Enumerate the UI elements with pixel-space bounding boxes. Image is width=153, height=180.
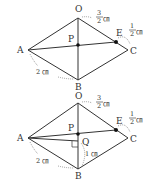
- label-E: E: [116, 116, 123, 126]
- arc-AB-marker-b: [58, 166, 74, 168]
- point-P-dot: [76, 43, 80, 47]
- measure-OE-numerator: 3: [97, 9, 101, 17]
- arc-AB-marker-b: [58, 77, 74, 79]
- measure-OE-numerator: 3: [97, 94, 101, 102]
- label-A: A: [16, 45, 24, 55]
- label-P: P: [68, 34, 74, 44]
- label-B: B: [75, 171, 82, 180]
- geometry-diagram: O A B C P E 3 2 ㎝ 1 2 ㎝ 2 ㎝ O A B: [0, 0, 153, 180]
- arc-OE-marker: [82, 17, 92, 18]
- figure-top: O A B C P E 3 2 ㎝ 1 2 ㎝ 2 ㎝: [16, 4, 143, 92]
- label-E: E: [116, 28, 123, 38]
- label-Q: Q: [82, 137, 89, 147]
- figure-bottom: O A B C P E Q 3 2 ㎝ 1 2 ㎝ 2 ㎝ 1 ㎝: [16, 91, 143, 180]
- measure-QB: 1 ㎝: [85, 150, 98, 158]
- measure-OE-denominator: 2: [97, 17, 101, 25]
- measure-OE-unit: ㎝: [103, 15, 110, 23]
- measure-EC-unit: ㎝: [136, 116, 143, 124]
- point-E-dot: [114, 128, 118, 132]
- point-P-dot: [76, 132, 80, 136]
- label-C: C: [130, 134, 137, 144]
- measure-OE-denominator: 2: [97, 102, 101, 110]
- point-E-dot: [114, 40, 118, 44]
- segment-AQ: [28, 138, 78, 141]
- right-angle-marker: [72, 141, 78, 147]
- measure-EC-numerator: 1: [130, 110, 134, 118]
- measure-OE-unit: ㎝: [103, 100, 110, 108]
- measure-EC-denominator: 2: [130, 30, 134, 38]
- label-P: P: [68, 123, 74, 133]
- label-C: C: [130, 46, 137, 56]
- label-O: O: [75, 4, 82, 14]
- measure-EC-denominator: 2: [130, 118, 134, 126]
- arc-OE-marker: [82, 102, 92, 103]
- measure-EC-unit: ㎝: [136, 28, 143, 36]
- measure-AB: 2 ㎝: [36, 157, 49, 165]
- label-A: A: [16, 133, 24, 143]
- measure-EC-numerator: 1: [130, 22, 134, 30]
- label-O: O: [75, 91, 82, 101]
- measure-AB: 2 ㎝: [36, 68, 49, 76]
